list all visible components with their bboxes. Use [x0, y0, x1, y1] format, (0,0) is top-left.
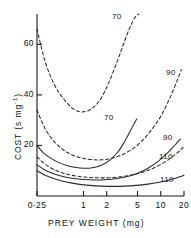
curve-label-90-dashed: 90: [166, 68, 176, 77]
curve-70-solid: [37, 119, 137, 168]
y-axis-title-main: COST (s mg: [13, 104, 23, 160]
curve-70-dashed: [37, 14, 139, 112]
x-tick-label: 2: [93, 200, 121, 210]
y-tick-label: 20: [14, 139, 34, 149]
axis-lines: [37, 14, 184, 196]
figure-cost-vs-prey-weight: COST (s mg-1) PREY WEIGHT (mg) 204060 0·…: [0, 0, 191, 238]
x-axis-title: PREY WEIGHT (mg): [48, 218, 145, 228]
y-axis-title: COST (s mg-1): [12, 93, 23, 160]
x-tick-marks: [37, 191, 184, 196]
x-tick-label: 0·25: [23, 200, 51, 210]
curve-label-70-dashed: 70: [112, 12, 122, 21]
y-tick-marks: [37, 44, 42, 145]
y-tick-label: 60: [14, 38, 34, 48]
curve-label-110-dashed: 110: [159, 152, 173, 161]
y-tick-label: 40: [14, 89, 34, 99]
curve-label-70-solid: 70: [104, 113, 114, 122]
x-tick-label: 20: [170, 200, 191, 210]
curve-label-110-solid: 110: [160, 175, 174, 184]
curve-label-90-solid: 90: [163, 133, 173, 142]
